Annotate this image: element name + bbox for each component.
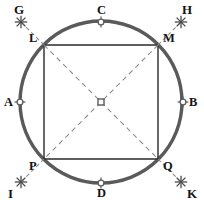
center-square-marker [98,99,104,105]
star-marker-H [175,16,187,28]
vertex-label-L: L [29,32,37,45]
center-marker [98,99,104,105]
ray-label-K: K [187,187,197,200]
point-label-D: D [97,187,106,200]
point-label-C: C [97,4,106,17]
ray-label-I: I [8,187,13,200]
vertex-label-M: M [163,32,175,45]
vertex-label-Q: Q [163,160,173,173]
point-label-A: A [4,96,13,109]
ray-label-G: G [14,3,24,16]
geometry-figure: LMQPABCDGHIK [0,0,204,200]
point-marker-B [178,97,189,108]
point-label-B: B [189,96,197,109]
star-marker-K [175,176,187,188]
vertex-label-P: P [29,160,37,173]
star-marker-I [15,176,27,188]
point-marker-C [96,17,107,28]
point-marker-A [15,97,26,108]
ray-label-H: H [182,3,192,16]
star-marker-G [15,16,27,28]
